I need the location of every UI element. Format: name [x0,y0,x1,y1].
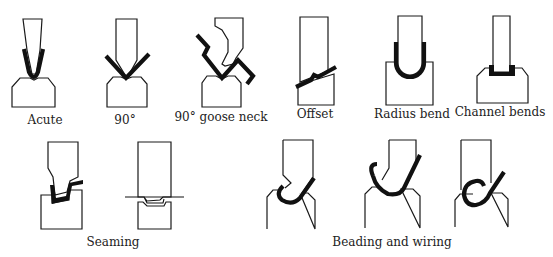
label-beading-wiring: Beading and wiring [332,235,452,249]
figure-offset [296,17,336,105]
figure-beading-2 [365,140,420,228]
figure-goose-neck [197,18,253,107]
figure-beading-1 [267,140,315,229]
label-acute: Acute [26,113,62,127]
figure-beading-3 [455,140,508,227]
die [41,190,82,229]
label-offset: Offset [297,107,334,121]
label-channel-bends: Channel bends [455,105,546,119]
label-seaming: Seaming [86,235,139,249]
label-90-degree: 90° [114,113,135,127]
die [107,77,147,107]
figure-seaming-1 [41,142,83,229]
figure-channel-bends [477,16,528,103]
punch [398,16,422,75]
press-brake-operations-diagram: Acute 90° 90° goose neck Offset Radius b… [0,0,553,257]
label-radius-bend: Radius bend [374,107,450,121]
label-goose-neck: 90° goose neck [174,110,268,124]
figure-acute [12,19,55,107]
figure-90-degree [106,19,149,107]
figure-seaming-2 [125,142,184,229]
punch [138,142,171,197]
figure-radius-bend [386,16,433,105]
die [267,190,315,229]
die [138,202,171,229]
punch [493,16,510,72]
die [12,78,55,107]
sheet-metal [125,197,184,203]
